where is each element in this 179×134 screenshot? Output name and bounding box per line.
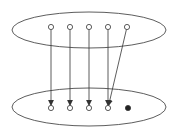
- node-a4: [105, 24, 110, 29]
- node-a2: [67, 24, 72, 29]
- arrow-a5-b4: [109, 30, 127, 105]
- node-b5: [125, 105, 130, 110]
- edges-layer: [51, 30, 126, 105]
- mapping-diagram: [0, 0, 179, 134]
- node-b1: [48, 105, 53, 110]
- node-b2: [67, 105, 72, 110]
- node-a3: [86, 24, 91, 29]
- node-b4: [105, 105, 110, 110]
- nodes-layer: [48, 24, 130, 110]
- node-b3: [86, 105, 91, 110]
- node-a5: [124, 24, 129, 29]
- node-a1: [48, 24, 53, 29]
